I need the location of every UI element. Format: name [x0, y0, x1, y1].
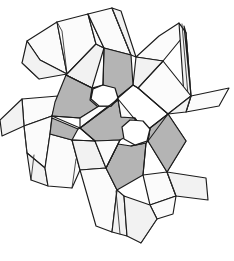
upper-heptagon-hole	[91, 85, 118, 106]
polyhedron-drawing	[0, 0, 234, 261]
polyhedron-figure: Faceted star polyhedron line drawing Six…	[0, 0, 234, 261]
